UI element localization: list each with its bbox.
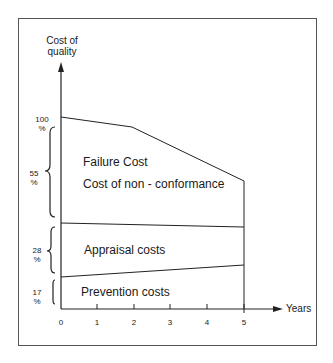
- y-axis-title-line2: quality: [42, 46, 82, 57]
- x-tick-4: 4: [202, 318, 212, 327]
- prevention-brace: [53, 280, 55, 304]
- x-tick-1: 1: [92, 318, 102, 327]
- pct-17-sym: %: [29, 297, 45, 306]
- pct-17-label: 17 %: [29, 288, 45, 306]
- y-axis-title-line1: Cost of: [42, 35, 82, 46]
- total-cost-line: [61, 117, 244, 181]
- y-axis-arrow-icon: [58, 62, 64, 72]
- x-axis-arrow-icon: [273, 306, 283, 312]
- appraisal-costs-label: Appraisal costs: [84, 243, 165, 257]
- prevention-boundary-line: [61, 265, 244, 277]
- pct-55-sym: %: [26, 178, 42, 187]
- x-tick-3: 3: [165, 318, 175, 327]
- pct-28-label: 28 %: [29, 246, 45, 264]
- failure-cost-label: Failure Cost: [83, 155, 148, 169]
- pct-100-label: 100 %: [32, 115, 52, 133]
- prevention-costs-label: Prevention costs: [81, 285, 170, 299]
- x-tick-0: 0: [56, 318, 66, 327]
- pct-28-sym: %: [29, 255, 45, 264]
- pct-100-num: 100: [32, 115, 52, 124]
- x-axis-title: Years: [286, 303, 311, 315]
- failure-brace: [45, 127, 55, 217]
- pct-55-num: 55: [26, 169, 42, 178]
- pct-55-label: 55 %: [26, 169, 42, 187]
- x-tick-2: 2: [129, 318, 139, 327]
- appraisal-brace: [47, 227, 55, 273]
- pct-28-num: 28: [29, 246, 45, 255]
- x-tick-5: 5: [239, 318, 249, 327]
- pct-100-sym: %: [32, 124, 52, 133]
- pct-17-num: 17: [29, 288, 45, 297]
- non-conformance-label: Cost of non - conformance: [83, 177, 224, 191]
- appraisal-boundary-line: [61, 223, 244, 227]
- y-axis-title: Cost of quality: [42, 35, 82, 57]
